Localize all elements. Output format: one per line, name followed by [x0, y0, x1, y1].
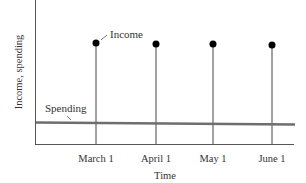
tick-label-may: May 1: [199, 153, 226, 164]
income-series: [93, 40, 276, 145]
income-annotation: Income: [110, 28, 143, 40]
income-dot-march: [93, 40, 100, 47]
income-dot-june: [269, 42, 276, 49]
income-spending-chart: Income Spending March 1 April 1 May 1 Ju…: [0, 0, 306, 183]
y-axis-title: Income, spending: [13, 34, 24, 109]
tick-label-march: March 1: [78, 153, 113, 164]
income-leader: [101, 35, 107, 40]
income-dot-april: [153, 41, 160, 48]
x-axis-title: Time: [154, 170, 176, 181]
spending-line: [36, 123, 295, 125]
spending-annotation: Spending: [45, 102, 87, 114]
spending-leader: [67, 116, 71, 120]
tick-label-june: June 1: [258, 153, 285, 164]
income-dot-may: [210, 41, 217, 48]
tick-label-april: April 1: [141, 153, 171, 164]
